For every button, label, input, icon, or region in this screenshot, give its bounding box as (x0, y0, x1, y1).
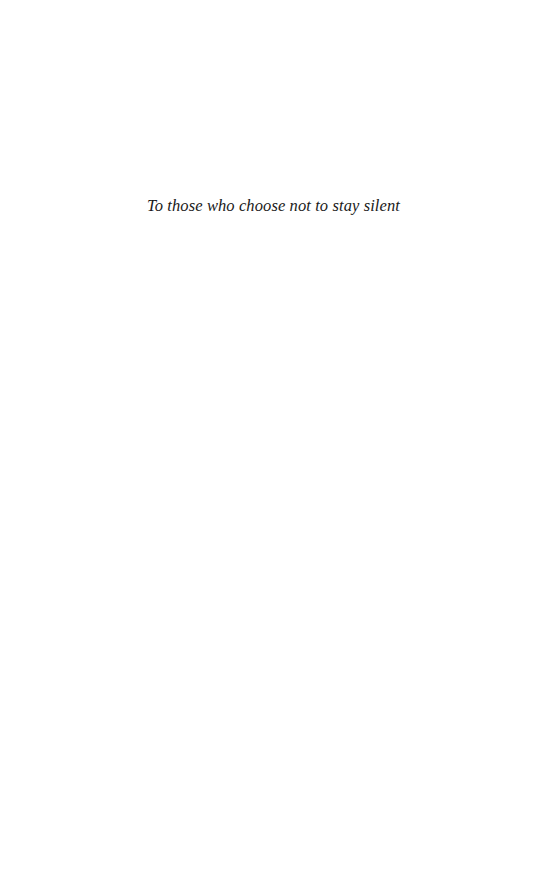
dedication-page: To those who choose not to stay silent (0, 0, 547, 885)
dedication-text: To those who choose not to stay silent (0, 196, 547, 216)
